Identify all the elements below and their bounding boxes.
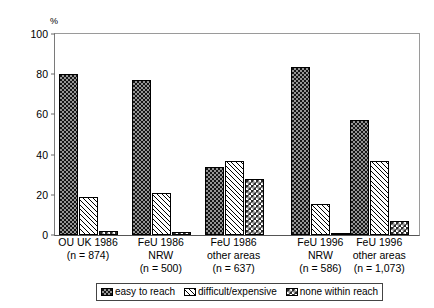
bar — [152, 193, 171, 235]
legend-item[interactable]: easy to reach — [101, 286, 175, 298]
bar — [225, 161, 244, 235]
bar-chart: % 020406080100 OU UK 1986(n = 874)FeU 19… — [0, 0, 434, 308]
y-axis-unit-label: % — [50, 16, 58, 26]
bar — [370, 161, 389, 235]
legend-swatch-icon — [286, 288, 298, 296]
bar-group — [59, 34, 128, 235]
x-axis-label-line: (n = 1,073) — [334, 262, 425, 275]
legend-item[interactable]: difficult/expensive — [184, 286, 277, 298]
bar — [79, 197, 98, 235]
bar — [205, 167, 224, 235]
chart-legend: easy to reachdifficult/expensivenone wit… — [96, 283, 383, 301]
x-axis-label-line: other areas — [188, 249, 279, 262]
bar-groups — [55, 34, 419, 235]
bar — [350, 120, 369, 235]
x-axis-label: FeU 1986other areas(n = 637) — [188, 236, 279, 275]
legend-label: difficult/expensive — [198, 286, 277, 298]
x-axis-label-line: FeU 1986 — [188, 236, 279, 249]
bar — [132, 80, 151, 235]
x-axis-label-line: other areas — [334, 249, 425, 262]
bar — [331, 233, 350, 235]
bar-group — [132, 34, 201, 235]
legend-item[interactable]: none within reach — [286, 286, 378, 298]
legend-swatch-icon — [101, 288, 113, 296]
bar — [245, 179, 264, 235]
bar-group — [350, 34, 419, 235]
bar — [291, 67, 310, 235]
bar — [59, 74, 78, 235]
bar — [172, 232, 191, 235]
x-axis-label: FeU 1996other areas(n = 1,073) — [334, 236, 425, 275]
legend-swatch-icon — [184, 288, 196, 296]
bar — [390, 221, 409, 235]
bar — [311, 204, 330, 235]
plot-area: 020406080100 — [54, 33, 420, 236]
x-axis-labels: OU UK 1986(n = 874)FeU 1986NRW(n = 500)F… — [54, 236, 418, 278]
x-axis-label-line: (n = 637) — [188, 262, 279, 275]
bar — [99, 231, 118, 235]
legend-label: easy to reach — [115, 286, 175, 298]
legend-label: none within reach — [300, 286, 378, 298]
x-axis-label-line: FeU 1996 — [334, 236, 425, 249]
bar-group — [205, 34, 274, 235]
